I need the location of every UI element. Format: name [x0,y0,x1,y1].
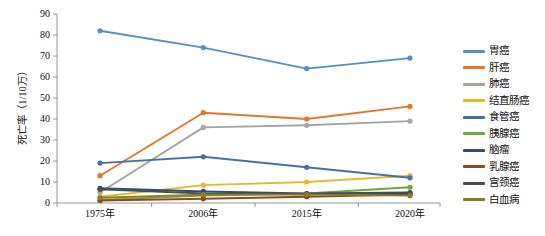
legend-color-swatch [463,149,485,152]
legend-label: 胃癌 [489,45,509,57]
data-point [304,179,309,184]
series-line [100,31,410,69]
legend-item[interactable]: 肝癌 [463,60,545,77]
legend-color-swatch [463,66,485,69]
data-point [304,165,309,170]
legend-color-swatch [463,182,485,185]
data-point [407,119,412,124]
data-point [304,66,309,71]
data-point [201,45,206,50]
data-point [407,175,412,180]
series-line [100,121,410,192]
legend-color-swatch [463,99,485,102]
legend-color-swatch [463,198,485,201]
data-point [201,154,206,159]
legend-label: 乳腺癌 [489,161,519,173]
data-point [201,192,206,197]
legend-label: 宫颈癌 [489,177,519,189]
legend-item[interactable]: 结直肠癌 [463,93,545,110]
data-point [407,56,412,61]
legend-label: 肝癌 [489,62,509,74]
legend-item[interactable]: 食管癌 [463,109,545,126]
legend-label: 肺癌 [489,78,509,90]
legend-color-swatch [463,50,485,53]
legend-label: 胰腺癌 [489,128,519,140]
data-point [201,125,206,130]
data-point [97,173,102,178]
mortality-rate-line-chart: 死亡率（1/10万） 0102030405060708090 1975年2006… [0,0,545,236]
legend-label: 结直肠癌 [489,95,529,107]
data-point [97,161,102,166]
legend-color-swatch [463,165,485,168]
data-point [304,123,309,128]
legend-item[interactable]: 脑瘤 [463,142,545,159]
legend-label: 白血病 [489,194,519,206]
chart-legend: 胃癌肝癌肺癌结直肠癌食管癌胰腺癌脑瘤乳腺癌宫颈癌白血病 [463,43,545,208]
series-食管癌 [97,154,412,180]
data-point [407,104,412,109]
data-point [304,192,309,197]
data-point [407,185,412,190]
legend-item[interactable]: 乳腺癌 [463,159,545,176]
legend-label: 脑瘤 [489,144,509,156]
data-point [201,183,206,188]
legend-color-swatch [463,116,485,119]
data-point [407,193,412,198]
legend-item[interactable]: 肺癌 [463,76,545,93]
data-point [97,28,102,33]
data-point [304,116,309,121]
legend-item[interactable]: 宫颈癌 [463,175,545,192]
series-line [100,106,410,175]
legend-item[interactable]: 白血病 [463,192,545,209]
legend-item[interactable]: 胰腺癌 [463,126,545,143]
data-point [97,187,102,192]
legend-label: 食管癌 [489,111,519,123]
series-line [100,157,410,178]
legend-color-swatch [463,132,485,135]
legend-color-swatch [463,83,485,86]
data-point [201,110,206,115]
series-肝癌 [97,104,412,178]
series-胃癌 [97,28,412,71]
legend-item[interactable]: 胃癌 [463,43,545,60]
data-point [97,195,102,200]
